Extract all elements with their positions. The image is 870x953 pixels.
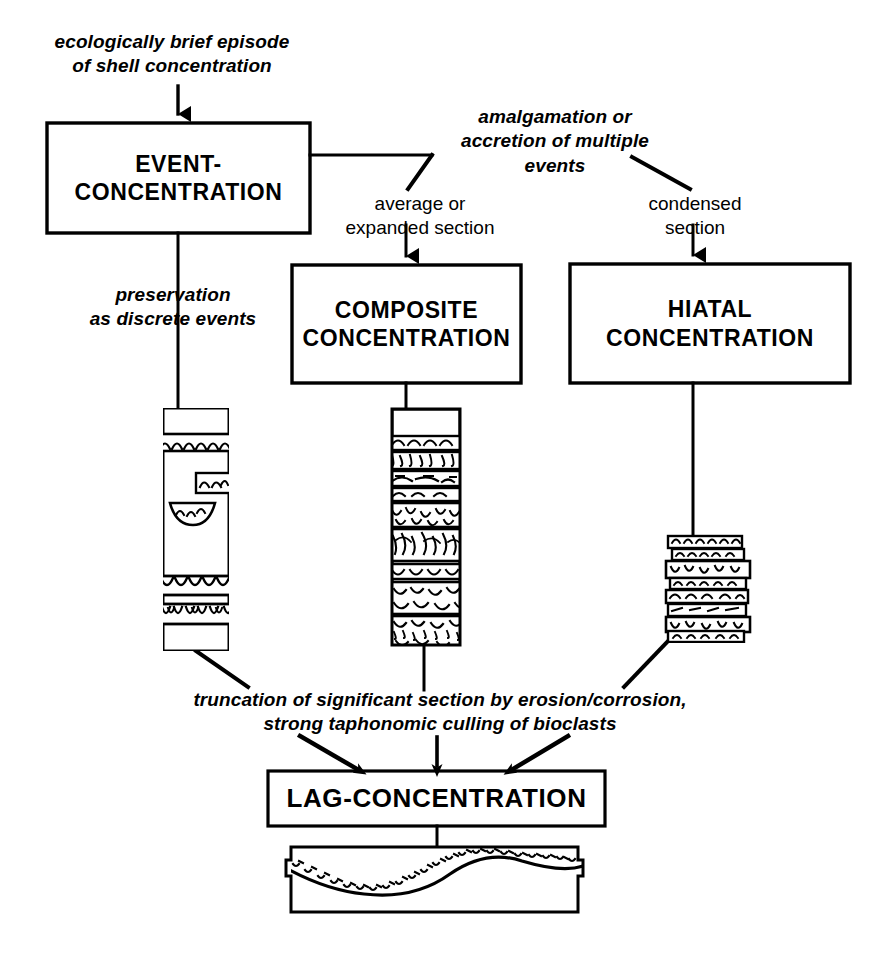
column-lag-concentration — [286, 847, 583, 912]
connector-branch-left — [408, 155, 432, 189]
annotation-average-expanded-section: average or expanded section — [330, 192, 510, 241]
column-hiatal-concentration — [666, 536, 750, 642]
annotation-top-input: ecologically brief episode of shell conc… — [22, 30, 322, 79]
annotation-condensed-section: condensed section — [625, 192, 765, 241]
connector-hiatal-column-to-lag — [624, 641, 668, 687]
box-label-composite-concentration: COMPOSITE CONCENTRATION — [292, 265, 521, 383]
annotation-preservation: preservation as discrete events — [68, 283, 278, 332]
diagram-canvas: ecologically brief episode of shell conc… — [0, 0, 870, 953]
connector-event-column-to-lag — [196, 651, 248, 687]
box-label-hiatal-concentration: HIATAL CONCENTRATION — [570, 264, 850, 383]
box-label-lag-concentration: LAG-CONCENTRATION — [268, 771, 605, 826]
arrow-right-to-lag — [513, 736, 568, 769]
arrow-left-to-lag — [300, 736, 357, 769]
box-label-event-concentration: EVENT- CONCENTRATION — [47, 123, 310, 233]
column-event-concentration — [156, 408, 243, 651]
column-composite-concentration — [388, 409, 468, 659]
annotation-truncation: truncation of significant section by ero… — [150, 688, 730, 737]
annotation-amalgamation: amalgamation or accretion of multiple ev… — [430, 105, 680, 178]
